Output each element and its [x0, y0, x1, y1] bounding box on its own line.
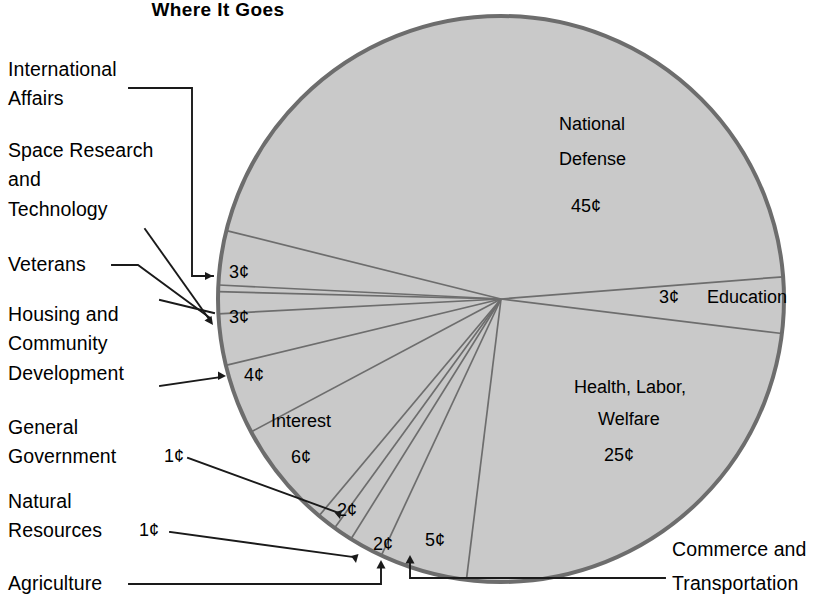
label-national-defense-line2: Defense — [559, 149, 626, 169]
chart-title: Where It Goes — [152, 0, 285, 20]
callout-space-line2: and — [8, 168, 41, 190]
arrowhead-agriculture — [377, 560, 386, 569]
label-interest-name: Interest — [271, 411, 331, 431]
chart-canvas: Where It Goes National Defense 45¢ 3¢ Ed… — [0, 0, 830, 609]
callout-housing-line3: Development — [8, 362, 124, 384]
callout-space-line3: Technology — [8, 198, 108, 220]
leader-space-research — [145, 229, 209, 319]
arrowhead-housing — [218, 372, 226, 381]
callout-commerce-line2: Transportation — [672, 572, 798, 594]
leader-agriculture — [129, 566, 381, 584]
pie-chart-figure: Where It Goes National Defense 45¢ 3¢ Ed… — [0, 0, 830, 609]
callout-general-government-value: 1¢ — [164, 446, 184, 466]
callout-natural-resources-line2: Resources — [8, 519, 102, 541]
leader-international-affairs — [129, 88, 213, 276]
callout-general-government-line2: Government — [8, 445, 117, 467]
pie-body — [218, 16, 784, 582]
arrowhead-natural-resources — [351, 554, 359, 563]
label-interest-value: 6¢ — [291, 447, 311, 467]
label-veterans-value: 3¢ — [229, 307, 249, 327]
arrowhead-international-affairs — [205, 272, 213, 280]
callout-natural-resources-value: 1¢ — [139, 520, 159, 540]
label-health-line2: Welfare — [598, 409, 660, 429]
label-health-value: 25¢ — [604, 445, 634, 465]
label-education-value: 3¢ — [659, 287, 679, 307]
callout-agriculture: Agriculture — [8, 572, 102, 594]
callout-international-affairs-line1: International — [8, 58, 117, 80]
leader-natural-resources — [170, 532, 353, 557]
label-health-line1: Health, Labor, — [574, 377, 686, 397]
label-housing-value: 4¢ — [244, 365, 264, 385]
callout-general-government-line1: General — [8, 416, 78, 438]
leader-veterans — [112, 265, 210, 318]
label-national-defense-line1: National — [559, 114, 625, 134]
callout-commerce-line1: Commerce and — [672, 538, 807, 560]
callout-natural-resources-line1: Natural — [8, 490, 72, 512]
leader-housing — [160, 377, 221, 386]
label-agriculture-value: 2¢ — [373, 534, 393, 554]
callout-housing-line1: Housing and — [8, 303, 119, 325]
label-intl-affairs-value: 3¢ — [229, 262, 249, 282]
label-education-name: Education — [707, 287, 787, 307]
callout-space-line1: Space Research — [8, 139, 154, 161]
callout-international-affairs-line2: Affairs — [8, 87, 64, 109]
label-national-defense-value: 45¢ — [571, 196, 601, 216]
label-commerce-value: 5¢ — [425, 530, 445, 550]
callout-housing-line2: Community — [8, 332, 108, 354]
callout-veterans: Veterans — [8, 253, 86, 275]
